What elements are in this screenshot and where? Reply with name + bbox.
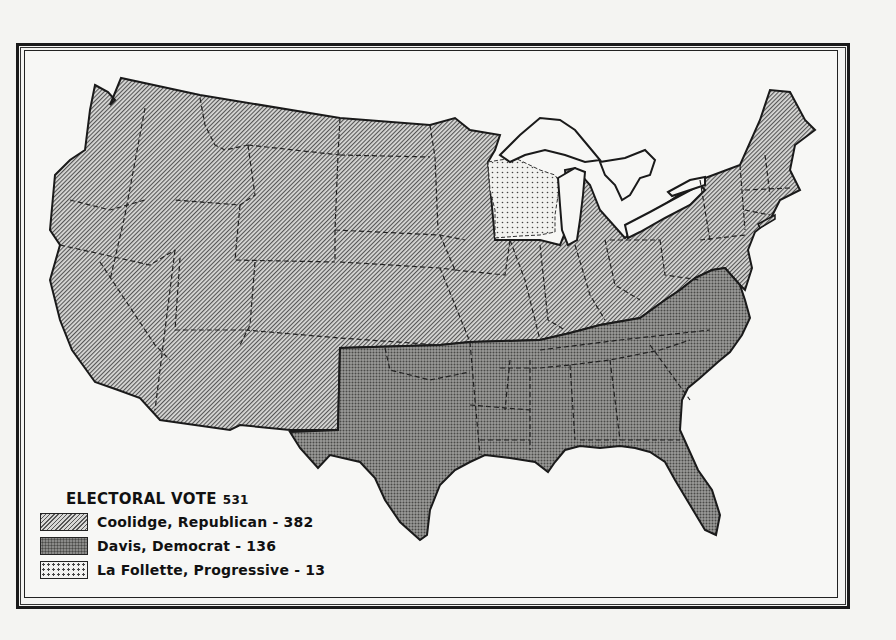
lake-huron	[600, 150, 655, 200]
legend-label-democrat: Davis, Democrat - 136	[97, 538, 276, 554]
dotted-swatch-icon	[40, 561, 88, 579]
legend-item-democrat: Davis, Democrat - 136	[40, 535, 325, 557]
legend-label-republican: Coolidge, Republican - 382	[97, 514, 313, 530]
legend-total-votes: 531	[223, 493, 249, 507]
legend-item-progressive: La Follette, Progressive - 13	[40, 559, 325, 581]
legend-item-republican: Coolidge, Republican - 382	[40, 511, 325, 533]
legend-label-progressive: La Follette, Progressive - 13	[97, 562, 325, 578]
map-legend: ELECTORAL VOTE 531 Coolidge, Republican …	[40, 490, 325, 583]
state-wisconsin-progressive	[488, 158, 560, 238]
legend-title: ELECTORAL VOTE 531	[66, 490, 325, 508]
lake-superior	[500, 118, 600, 162]
crosshatch-swatch-icon	[40, 537, 88, 555]
diagonal-hatch-swatch-icon	[40, 513, 88, 531]
legend-title-text: ELECTORAL VOTE	[66, 490, 217, 508]
